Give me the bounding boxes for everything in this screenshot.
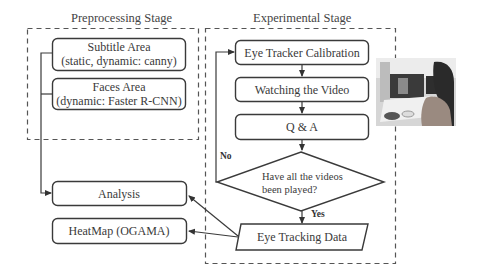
heatmap-label: HeatMap (OGAMA) xyxy=(52,224,186,238)
eye-tracking-data-label: Eye Tracking Data xyxy=(238,230,366,244)
participant-photo xyxy=(376,58,456,126)
eye-tracker-calibration-label: Eye Tracker Calibration xyxy=(235,46,369,60)
faces-area-title: Faces Area xyxy=(52,80,186,94)
faces-area-text: Faces Area (dynamic: Faster R-CNN) xyxy=(52,80,186,108)
data-to-analysis-arrow xyxy=(189,196,238,236)
watching-video-label: Watching the Video xyxy=(235,83,369,97)
decision-line-2: been played? xyxy=(262,183,343,196)
no-loop-connector xyxy=(216,52,234,182)
preprocessing-to-analysis-connector xyxy=(41,53,52,193)
no-label: No xyxy=(220,151,232,161)
decision-line-1: Have all the videos xyxy=(262,170,343,183)
faces-area-method: (dynamic: Faster R-CNN) xyxy=(52,94,186,108)
subtitle-area-text: Subtitle Area (static, dynamic: canny) xyxy=(52,40,186,68)
yes-label: Yes xyxy=(311,209,325,219)
decision-text: Have all the videos been played? xyxy=(262,170,343,196)
data-to-heatmap-arrow xyxy=(189,231,238,237)
experimental-stage-title: Experimental Stage xyxy=(250,11,354,26)
analysis-label: Analysis xyxy=(52,187,186,201)
subtitle-area-method: (static, dynamic: canny) xyxy=(52,54,186,68)
subtitle-area-title: Subtitle Area xyxy=(52,40,186,54)
qa-label: Q & A xyxy=(235,120,369,134)
preprocessing-stage-title: Preprocessing Stage xyxy=(68,11,175,26)
